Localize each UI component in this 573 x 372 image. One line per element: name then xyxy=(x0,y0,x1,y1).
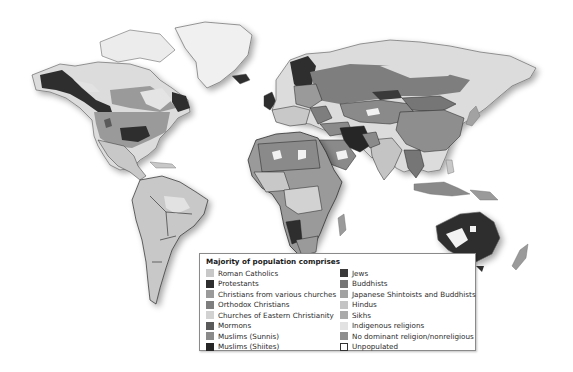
legend-item-protestants: Protestants xyxy=(206,279,340,290)
legend-item-christians-various: Christians from various churches xyxy=(206,289,340,300)
legend-item-shiites: Muslims (Shiites) xyxy=(206,342,340,353)
madagascar xyxy=(338,214,346,236)
legend-label: Japanese Shintoists and Buddhists xyxy=(352,290,476,299)
swatch-mormons xyxy=(206,322,214,330)
new-guinea xyxy=(470,190,498,200)
legend-item-indigenous: Indigenous religions xyxy=(340,321,470,332)
legend-item-jews: Jews xyxy=(340,268,470,279)
swatch-buddhists xyxy=(340,280,348,288)
legend-column-left: Roman Catholics Protestants Christians f… xyxy=(206,268,340,352)
south-america xyxy=(132,176,208,304)
legend-label: Mormons xyxy=(218,321,251,330)
new-zealand xyxy=(512,244,528,270)
legend-item-sikhs: Sikhs xyxy=(340,310,470,321)
sahara-north xyxy=(258,140,320,172)
legend-label: Churches of Eastern Christianity xyxy=(218,311,334,320)
indonesia xyxy=(414,182,470,196)
europe-catholic xyxy=(272,106,310,126)
swatch-unpopulated xyxy=(340,343,348,351)
swatch-shiites xyxy=(206,343,214,351)
caribbean xyxy=(150,162,176,168)
legend-label: Roman Catholics xyxy=(218,269,278,278)
legend-column-right: Jews Buddhists Japanese Shintoists and B… xyxy=(340,268,470,352)
se-asia xyxy=(404,150,424,178)
swatch-indigenous xyxy=(340,322,348,330)
swatch-orthodox xyxy=(206,301,214,309)
legend-item-mormons: Mormons xyxy=(206,321,340,332)
swatch-roman-catholics xyxy=(206,269,214,277)
legend-item-unpopulated: Unpopulated xyxy=(340,342,470,353)
map-legend: Majority of population comprises Roman C… xyxy=(199,253,476,351)
legend-label: Hindus xyxy=(352,300,377,309)
swatch-eastern-churches xyxy=(206,311,214,319)
arctic-islands xyxy=(100,30,175,62)
legend-item-roman-catholics: Roman Catholics xyxy=(206,268,340,279)
legend-label: No dominant religion/nonreligious xyxy=(352,332,474,341)
legend-item-sunnis: Muslims (Sunnis) xyxy=(206,331,340,342)
iceland xyxy=(232,74,250,84)
swatch-protestants xyxy=(206,280,214,288)
swatch-sikhs xyxy=(340,311,348,319)
legend-title: Majority of population comprises xyxy=(206,257,470,266)
swatch-hindus xyxy=(340,301,348,309)
legend-item-shinto-buddhists: Japanese Shintoists and Buddhists xyxy=(340,289,470,300)
philippines xyxy=(446,160,454,174)
legend-label: Jews xyxy=(352,269,368,278)
australia-unpop-2 xyxy=(470,226,476,232)
legend-label: Sikhs xyxy=(352,311,371,320)
legend-label: Buddhists xyxy=(352,279,387,288)
swatch-christians-various xyxy=(206,290,214,298)
legend-item-nonreligious: No dominant religion/nonreligious xyxy=(340,331,470,342)
legend-item-hindus: Hindus xyxy=(340,300,470,311)
legend-label: Protestants xyxy=(218,279,259,288)
legend-label: Orthodox Christians xyxy=(218,300,289,309)
swatch-sunnis xyxy=(206,332,214,340)
legend-item-eastern-churches: Churches of Eastern Christianity xyxy=(206,310,340,321)
legend-label: Unpopulated xyxy=(352,342,398,351)
tasmania xyxy=(476,266,484,272)
legend-label: Indigenous religions xyxy=(352,321,424,330)
legend-item-orthodox: Orthodox Christians xyxy=(206,300,340,311)
swatch-shinto-buddhists xyxy=(340,290,348,298)
legend-label: Christians from various churches xyxy=(218,290,336,299)
legend-label: Muslims (Sunnis) xyxy=(218,332,279,341)
swatch-nonreligious xyxy=(340,332,348,340)
legend-label: Muslims (Shiites) xyxy=(218,342,279,351)
legend-item-buddhists: Buddhists xyxy=(340,279,470,290)
swatch-jews xyxy=(340,269,348,277)
